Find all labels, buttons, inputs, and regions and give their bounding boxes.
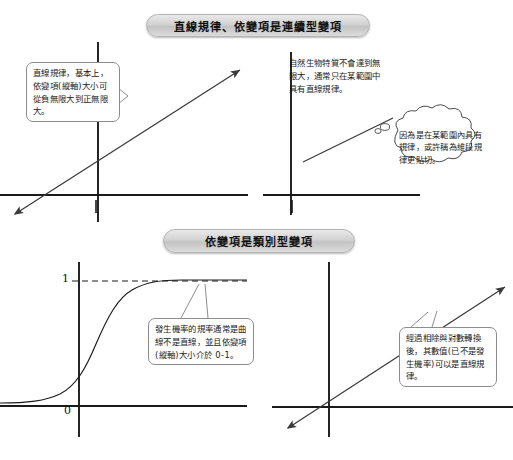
cloud-callout: 因為是在某範圍內具有規律，或許稱為維段規律更貼切。 xyxy=(378,112,506,192)
bottom-left-callout-leader xyxy=(181,284,208,318)
cloud-callout-text: 因為是在某範圍內具有規律，或許稱為維段規律更貼切。 xyxy=(399,129,487,166)
bottom-right-callout-leader xyxy=(411,311,437,327)
section-tick-marks xyxy=(96,200,292,213)
note-limited-range: 自然生物特質不會達到無限大，通常只在某範圍中具有直線規律。 xyxy=(289,57,387,96)
callout-linear-full-range: 直線規律，基本上，依變項(縱軸)大小可從負無限大到正無限大。 xyxy=(26,62,120,122)
callout-logit-transform: 經過相除與對數轉換後，其數值(已不是發生機率)可以是直線規律。 xyxy=(399,327,497,387)
y-axis-label-one: 1 xyxy=(62,272,69,285)
diagram-canvas: 直線規律、依變項是連續型變項 依變項是類別型變項 直線規律，基本上，依變項(縱軸… xyxy=(0,0,513,460)
callout-probability-sigmoid: 發生機率的規率通常是曲線不是直線，並且依變項(縱軸)大小介於 0-1。 xyxy=(148,318,254,365)
origin-label-zero: 0 xyxy=(64,404,71,417)
section-title-continuous: 直線規律、依變項是連續型變項 xyxy=(146,14,370,37)
section-title-categorical: 依變項是類別型變項 xyxy=(163,229,355,253)
